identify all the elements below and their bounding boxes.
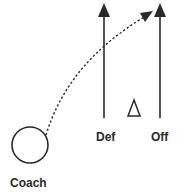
coach-circle-icon <box>12 127 48 163</box>
offense-label: Off <box>151 131 168 143</box>
coach-label: Coach <box>10 177 47 189</box>
pass-arrowhead-icon <box>140 11 153 22</box>
defense-label: Def <box>96 131 115 143</box>
defense-arrowhead-icon <box>98 3 110 17</box>
defense-arrow <box>98 3 110 118</box>
offense-arrow <box>154 3 166 118</box>
offense-arrowhead-icon <box>154 3 166 17</box>
coaching-diagram <box>0 0 178 193</box>
cone-triangle-icon <box>128 100 140 116</box>
